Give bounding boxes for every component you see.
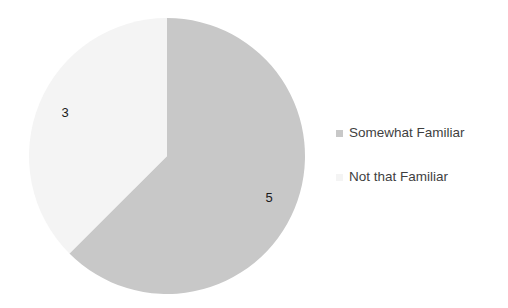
pie-slice-value-label: 5 <box>265 190 272 205</box>
legend-item-label: Somewhat Familiar <box>349 126 465 140</box>
pie-graphic: 5 3 <box>0 0 340 308</box>
pie-slice-value-label: 3 <box>61 105 68 120</box>
legend-item-somewhat-familiar[interactable]: Somewhat Familiar <box>336 122 506 144</box>
pie-chart: 5 3 Somewhat Familiar Not that Familiar <box>0 0 508 308</box>
pie-plot-area: 5 3 <box>0 0 340 308</box>
legend-color-swatch-icon <box>336 130 343 137</box>
legend-item-label: Not that Familiar <box>349 170 448 184</box>
legend-item-not-that-familiar[interactable]: Not that Familiar <box>336 166 506 188</box>
chart-legend: Somewhat Familiar Not that Familiar <box>336 122 506 210</box>
legend-color-swatch-icon <box>336 174 343 181</box>
